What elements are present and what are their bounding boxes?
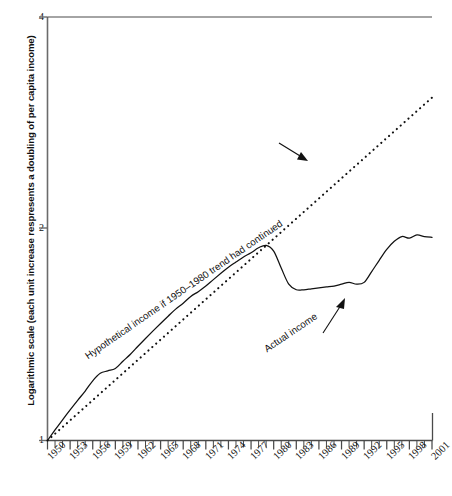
actual-arrow-head (336, 298, 345, 309)
annotation-arrows (279, 143, 345, 333)
hypothetical-arrow-head (297, 152, 308, 161)
series-hypothetical-income (48, 98, 433, 441)
data-series-layer (48, 98, 433, 441)
axes-group (39, 17, 433, 441)
